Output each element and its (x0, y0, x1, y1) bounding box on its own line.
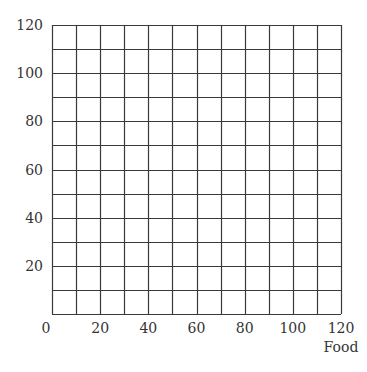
x-axis-ticks: 020406080100120 (42, 320, 355, 336)
blank-grid-chart: 020406080100120 20406080100120 Food (0, 0, 367, 372)
y-tick-label: 80 (25, 113, 43, 129)
x-tick-label: 100 (279, 320, 306, 336)
x-tick-label: 0 (42, 320, 51, 336)
y-tick-label: 60 (25, 162, 43, 178)
x-tick-label: 60 (188, 320, 206, 336)
y-tick-label: 40 (25, 210, 43, 226)
x-tick-label: 120 (328, 320, 355, 336)
x-tick-label: 20 (91, 320, 109, 336)
grid-lines (52, 25, 342, 315)
y-axis-ticks: 20406080100120 (16, 17, 43, 274)
x-tick-label: 80 (236, 320, 254, 336)
y-tick-label: 100 (16, 65, 43, 81)
x-tick-label: 40 (139, 320, 157, 336)
y-tick-label: 20 (25, 258, 43, 274)
x-axis-label: Food (324, 339, 359, 355)
y-tick-label: 120 (16, 17, 43, 33)
